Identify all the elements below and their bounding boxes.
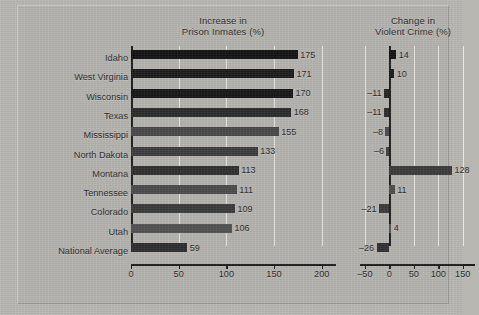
category-label: Colorado	[91, 207, 128, 217]
gridline	[365, 46, 366, 246]
chart-title-prison-line1: Increase in	[148, 15, 298, 26]
category-label: West Virginia	[74, 72, 128, 82]
chart-title-violent-crime: Change in Violent Crime (%)	[348, 15, 478, 37]
bar-value-label: –11	[367, 107, 381, 117]
bar	[131, 108, 291, 117]
chart-title-violent-crime-line2: Violent Crime (%)	[348, 26, 478, 37]
gridline	[414, 46, 415, 246]
bar	[389, 166, 452, 175]
chart-title-prison: Increase in Prison Inmates (%)	[148, 15, 298, 37]
bar	[384, 108, 389, 117]
bar-value-label: 128	[455, 165, 470, 175]
bar-value-label: 106	[235, 223, 250, 233]
x-axis-line	[131, 264, 336, 266]
category-label: Utah	[109, 227, 128, 237]
bar-value-label: 155	[281, 127, 296, 137]
bar-value-label: –26	[359, 243, 374, 253]
bar	[385, 127, 389, 136]
bar	[389, 69, 394, 78]
category-label: Montana	[92, 169, 128, 179]
category-label: National Average	[58, 246, 128, 256]
x-axis-line	[360, 264, 475, 266]
plot-area-violent-crime: 1410–11–11–8–612811–214–26	[360, 46, 475, 246]
gridline	[463, 46, 464, 246]
bar-value-label: –11	[367, 88, 381, 98]
bar-value-label: 14	[399, 50, 409, 60]
category-label: Texas	[104, 111, 128, 121]
gridline	[438, 46, 439, 246]
bar-value-label: –8	[373, 127, 383, 137]
bar	[389, 185, 394, 194]
bar	[384, 89, 389, 98]
figure-plate: Increase in Prison Inmates (%) Change in…	[17, 5, 449, 304]
category-label: Tennessee	[84, 188, 128, 198]
bar	[131, 204, 235, 213]
x-axis-tick-label: 100	[210, 269, 242, 280]
bar-value-label: 171	[297, 69, 312, 79]
bar-value-label: 170	[296, 88, 311, 98]
category-label: North Dakota	[74, 150, 128, 160]
category-label: Wisconsin	[86, 92, 128, 102]
category-label-column: IdahoWest VirginiaWisconsinTexasMississi…	[36, 50, 128, 260]
bar	[131, 166, 239, 175]
chart-panel-prison: 17517117016815513311311110910659 0501001…	[131, 46, 336, 264]
bar-value-label: –6	[374, 146, 384, 156]
x-axis-tick-label: 200	[306, 269, 338, 280]
bar-value-label: –21	[362, 204, 377, 214]
x-axis-tick-label: 150	[258, 269, 290, 280]
bar-value-label: 111	[239, 185, 253, 195]
bar-value-label: 109	[237, 204, 252, 214]
bar	[131, 243, 187, 252]
bar-value-label: 133	[260, 146, 275, 156]
plot-area-prison: 17517117016815513311311110910659	[131, 46, 336, 246]
bar	[131, 147, 258, 156]
bar-value-label: 168	[294, 107, 309, 117]
gridline	[322, 46, 323, 246]
bar	[131, 185, 237, 194]
bar	[379, 204, 389, 213]
category-label: Idaho	[105, 53, 128, 63]
bar	[131, 127, 279, 136]
bar	[389, 224, 391, 233]
bar	[131, 69, 294, 78]
bar-value-label: 59	[190, 243, 200, 253]
bar-value-label: 4	[394, 223, 399, 233]
bar	[131, 89, 293, 98]
bar-value-label: 11	[397, 185, 406, 195]
bar-value-label: 10	[397, 69, 407, 79]
bar	[131, 224, 232, 233]
bar	[131, 50, 298, 59]
chart-title-violent-crime-line1: Change in	[348, 15, 478, 26]
bar-value-label: 113	[241, 165, 255, 175]
bar	[377, 243, 390, 252]
x-axis-tick-label: 150	[447, 269, 479, 280]
category-label: Mississippi	[84, 130, 128, 140]
x-axis-tick-label: 50	[163, 269, 195, 280]
chart-panel-violent-crime: 1410–11–11–8–612811–214–26 –50050100150	[360, 46, 475, 264]
x-axis-tick-label: 0	[115, 269, 147, 280]
bar-value-label: 175	[300, 50, 315, 60]
bar	[389, 50, 396, 59]
bar	[386, 147, 389, 156]
chart-title-prison-line2: Prison Inmates (%)	[148, 26, 298, 37]
